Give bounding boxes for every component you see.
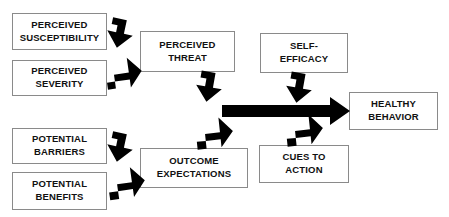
box-perceived-susceptibility: PERCEIVED SUSCEPTIBILITY (12, 13, 107, 50)
box-label-line: EXPECTATIONS (157, 168, 231, 181)
box-label-line: CUES TO (282, 151, 325, 164)
box-label-line: THREAT (168, 52, 207, 65)
box-label-line: PERCEIVED (31, 19, 87, 32)
arrow-barriers-to-outcome-icon (104, 131, 135, 165)
box-label-line: SELF- (290, 40, 318, 53)
box-label-line: SEVERITY (35, 78, 83, 91)
arrow-threat-to-main-icon (194, 70, 225, 104)
box-label-line: OUTCOME (169, 155, 219, 168)
box-perceived-threat: PERCEIVED THREAT (140, 31, 235, 72)
box-label-line: BENEFITS (35, 191, 83, 204)
box-label-line: ACTION (285, 164, 322, 177)
arrow-outcome-to-main-icon (195, 116, 235, 150)
box-label-line: BEHAVIOR (368, 111, 419, 124)
box-label-line: POTENTIAL (32, 178, 87, 191)
arrow-self-efficacy-to-main-icon (284, 71, 315, 105)
box-outcome-expectations: OUTCOME EXPECTATIONS (140, 148, 248, 188)
box-label-line: PERCEIVED (31, 65, 87, 78)
box-healthy-behavior: HEALTHY BEHAVIOR (349, 92, 438, 130)
box-label-line: POTENTIAL (32, 133, 87, 146)
arrow-susceptibility-to-threat-icon (104, 17, 135, 51)
arrow-main-to-healthy-behavior-icon (222, 97, 350, 125)
box-label-line: BARRIERS (34, 146, 85, 159)
box-label-line: EFFICACY (280, 53, 329, 66)
box-label-line: PERCEIVED (159, 39, 215, 52)
box-perceived-severity: PERCEIVED SEVERITY (12, 60, 107, 96)
box-cues-to-action: CUES TO ACTION (259, 145, 349, 183)
box-potential-benefits: POTENTIAL BENEFITS (12, 172, 107, 210)
box-potential-barriers: POTENTIAL BARRIERS (12, 128, 107, 164)
box-label-line: SUSCEPTIBILITY (20, 32, 100, 45)
box-self-efficacy: SELF- EFFICACY (260, 33, 348, 73)
box-label-line: HEALTHY (371, 98, 416, 111)
arrow-cues-to-main-icon (285, 113, 325, 147)
health-belief-model-diagram: PERCEIVED SUSCEPTIBILITY PERCEIVED SEVER… (0, 0, 449, 217)
arrow-severity-to-threat-icon (104, 56, 144, 91)
